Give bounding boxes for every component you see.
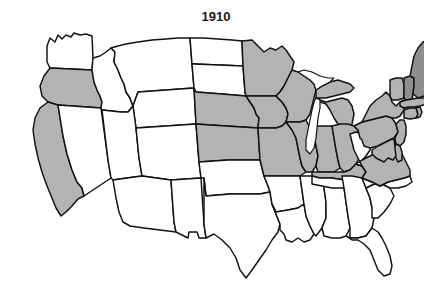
choropleth-figure: 1910	[0, 0, 432, 294]
state-KS[interactable]	[196, 124, 260, 162]
state-WY[interactable]	[133, 88, 196, 128]
state-NH[interactable]	[404, 76, 414, 100]
state-OK[interactable]	[199, 160, 270, 196]
state-RI[interactable]	[416, 107, 422, 118]
state-VT[interactable]	[390, 78, 404, 100]
us-map	[14, 26, 424, 284]
state-NM[interactable]	[171, 178, 206, 238]
state-CO[interactable]	[136, 124, 201, 180]
state-ND[interactable]	[190, 38, 243, 66]
state-WA[interactable]	[47, 33, 93, 70]
state-AZ[interactable]	[113, 176, 176, 232]
state-SD[interactable]	[192, 64, 246, 96]
map-title: 1910	[0, 9, 432, 24]
